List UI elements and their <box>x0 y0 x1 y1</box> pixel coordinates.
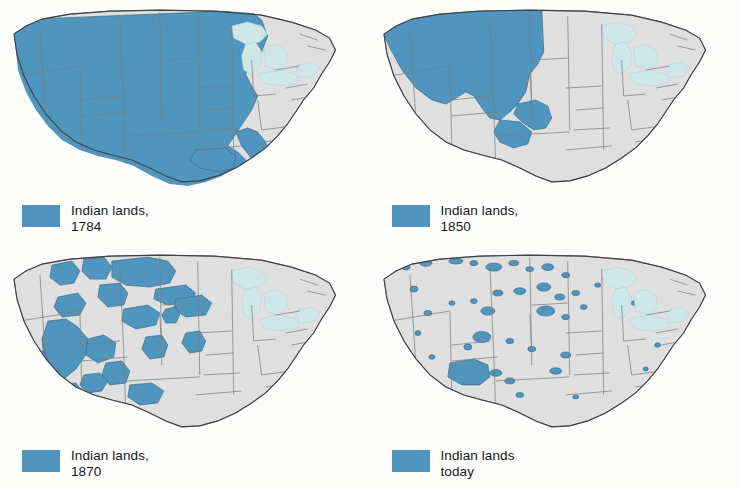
us-map-svg-1850 <box>370 0 739 200</box>
legend-today: Indian lands today <box>392 448 515 479</box>
legend-swatch-1850 <box>392 205 430 227</box>
panel-1850: Indian lands, 1850 <box>370 0 739 245</box>
map-series-grid: Indian lands, 1784 <box>0 0 739 490</box>
map-1850 <box>370 0 739 200</box>
us-map-svg-1870 <box>0 245 370 445</box>
legend-1850: Indian lands, 1850 <box>392 203 519 234</box>
legend-1784: Indian lands, 1784 <box>22 203 149 234</box>
legend-label-1850: Indian lands, 1850 <box>441 203 519 234</box>
map-1870 <box>0 245 370 445</box>
legend-label-1784: Indian lands, 1784 <box>71 203 149 234</box>
legend-1870: Indian lands, 1870 <box>22 448 149 479</box>
legend-swatch-today <box>392 450 430 472</box>
panel-today: Indian lands today <box>370 245 739 490</box>
panel-1870: Indian lands, 1870 <box>0 245 370 490</box>
panel-1784: Indian lands, 1784 <box>0 0 370 245</box>
us-map-svg-1784 <box>0 0 370 200</box>
legend-swatch-1784 <box>22 205 60 227</box>
map-1784 <box>0 0 370 200</box>
us-map-svg-today <box>370 245 739 445</box>
legend-label-1870: Indian lands, 1870 <box>71 448 149 479</box>
map-today <box>370 245 739 445</box>
base-land-layer <box>383 255 705 427</box>
legend-swatch-1870 <box>22 450 60 472</box>
legend-label-today: Indian lands today <box>441 448 515 479</box>
